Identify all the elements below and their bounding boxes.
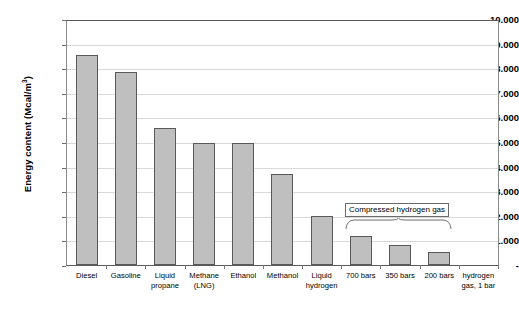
bar [389,245,411,265]
x-tick-mark [498,265,499,269]
bar-slot [224,21,263,265]
brace-svg [345,218,452,230]
x-axis-label-line: Methane [185,271,224,281]
x-tick-mark [224,265,225,269]
bar [271,174,293,266]
x-axis-label-line: hydrogen [302,281,341,291]
x-axis-labels: DieselGasolineLiquidpropaneMethane(LNG)E… [67,271,498,307]
x-tick-mark [380,265,381,269]
bar-slot [145,21,184,265]
x-axis-label: Methanol [263,271,302,281]
bar-slot [302,21,341,265]
x-tick-mark [459,265,460,269]
x-axis-label: Methane(LNG) [185,271,224,290]
x-axis-label-line: 200 bars [420,271,459,281]
bar [428,252,450,265]
x-axis-label: hydrogengas, 1 bar [459,271,498,290]
bar [350,236,372,265]
bar-slot [459,21,498,265]
x-axis-label-line: propane [145,281,184,291]
bar [311,216,333,265]
y-axis-title-tail: ) [22,76,33,79]
bar-slot [263,21,302,265]
bar [76,55,98,265]
x-axis-label-line: Ethanol [224,271,263,281]
x-axis-label-line: Liquid [145,271,184,281]
x-axis-label-line: 700 bars [341,271,380,281]
bar [232,143,254,265]
x-axis-label-line: Methanol [263,271,302,281]
y-tick-mark [62,266,66,267]
x-axis-label-line: gas, 1 bar [459,281,498,291]
y-axis-title: Energy content (Mcal/m3) [21,19,33,249]
bar [115,72,137,265]
x-axis-label-line: hydrogen [459,271,498,281]
bar-slot [185,21,224,265]
bar [154,128,176,265]
x-axis-label: Diesel [67,271,106,281]
x-axis-label: Liquidhydrogen [302,271,341,290]
x-axis-label: 700 bars [341,271,380,281]
x-tick-mark [106,265,107,269]
x-axis-label: Ethanol [224,271,263,281]
x-tick-mark [145,265,146,269]
x-axis-label-line: Liquid [302,271,341,281]
energy-content-bar-chart: Energy content (Mcal/m3) 10.0009.0008.00… [0,0,519,311]
x-axis-label-line: (LNG) [185,281,224,291]
x-tick-mark [341,265,342,269]
bar [193,143,215,265]
x-axis-label-line: 350 bars [380,271,419,281]
x-tick-mark [420,265,421,269]
x-axis-label: 200 bars [420,271,459,281]
x-axis-label: Liquidpropane [145,271,184,290]
y-axis-title-main: Energy content (Mcal/m [22,83,33,192]
x-axis-label-line: Gasoline [106,271,145,281]
y-axis-title-exponent: 3 [21,79,28,83]
bar-slot [67,21,106,265]
x-tick-mark [263,265,264,269]
x-axis-label: 350 bars [380,271,419,281]
x-axis-label-line: Diesel [67,271,106,281]
bar-slot [106,21,145,265]
annotation-compressed-hydrogen-gas: Compressed hydrogen gas [345,203,449,217]
x-tick-mark [185,265,186,269]
x-axis-label: Gasoline [106,271,145,281]
annotation-brace-icon [345,216,452,228]
x-tick-mark [302,265,303,269]
